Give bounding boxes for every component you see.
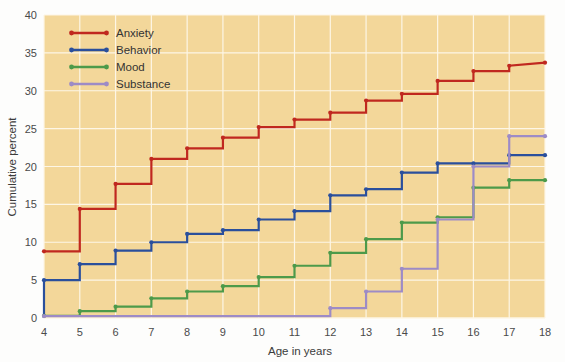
x-tick-label: 8	[184, 326, 190, 338]
legend-marker-start	[69, 31, 74, 36]
series-point	[507, 64, 511, 68]
x-tick-label: 6	[113, 326, 119, 338]
legend-label: Substance	[116, 78, 170, 90]
y-tick-label: 5	[31, 274, 37, 286]
x-tick-label: 5	[77, 326, 83, 338]
y-axis-title: Cumulative percent	[6, 117, 18, 217]
series-point	[507, 134, 511, 138]
series-point	[185, 146, 189, 150]
series-point	[149, 157, 153, 161]
series-point	[543, 153, 547, 157]
y-tick-label: 40	[25, 9, 37, 21]
y-tick-label: 25	[25, 123, 37, 135]
x-tick-label: 4	[41, 326, 47, 338]
series-point	[328, 111, 332, 115]
y-tick-label: 10	[25, 236, 37, 248]
y-tick-label: 20	[25, 161, 37, 173]
x-axis-title: Age in years	[268, 345, 332, 357]
legend-marker-start	[69, 65, 74, 70]
series-point	[78, 207, 82, 211]
y-tick-label: 30	[25, 85, 37, 97]
series-point	[471, 164, 475, 168]
series-point	[185, 232, 189, 236]
series-point	[78, 309, 82, 313]
series-point	[257, 217, 261, 221]
series-point	[328, 306, 332, 310]
series-point	[42, 314, 46, 318]
series-point	[400, 170, 404, 174]
series-point	[400, 267, 404, 271]
x-tick-label: 11	[289, 326, 300, 338]
series-point	[257, 125, 261, 129]
x-tick-label: 15	[432, 326, 444, 338]
series-point	[471, 69, 475, 73]
series-point	[149, 240, 153, 244]
legend-marker-end	[104, 65, 109, 70]
series-point	[364, 289, 368, 293]
series-point	[221, 284, 225, 288]
series-point	[113, 248, 117, 252]
series-point	[149, 296, 153, 300]
series-point	[113, 182, 117, 186]
legend-label: Behavior	[116, 44, 162, 56]
series-point	[292, 209, 296, 213]
chart-canvas: 0510152025303540 45678910111213141516171…	[0, 0, 565, 362]
series-point	[436, 161, 440, 165]
series-point	[436, 217, 440, 221]
x-tick-label: 13	[360, 326, 372, 338]
series-point	[364, 237, 368, 241]
legend-marker-end	[104, 48, 109, 53]
series-point	[292, 264, 296, 268]
series-point	[400, 220, 404, 224]
y-tick-label: 35	[25, 47, 37, 59]
x-tick-label: 10	[253, 326, 265, 338]
legend-label: Anxiety	[116, 27, 154, 39]
series-point	[78, 262, 82, 266]
series-point	[221, 228, 225, 232]
series-point	[328, 193, 332, 197]
legend-marker-start	[69, 48, 74, 53]
x-tick-label: 16	[467, 326, 479, 338]
y-axis-tick-labels: 0510152025303540	[25, 9, 37, 324]
x-tick-label: 9	[220, 326, 226, 338]
series-point	[543, 134, 547, 138]
series-point	[364, 98, 368, 102]
legend-label: Mood	[116, 61, 145, 73]
x-axis-tick-labels: 456789101112131415161718	[41, 326, 551, 338]
x-tick-label: 14	[396, 326, 408, 338]
series-point	[436, 79, 440, 83]
x-tick-label: 17	[503, 326, 515, 338]
y-tick-label: 0	[31, 312, 37, 324]
series-point	[42, 249, 46, 253]
series-point	[42, 278, 46, 282]
series-point	[364, 187, 368, 191]
series-point	[400, 92, 404, 96]
y-tick-label: 15	[25, 198, 37, 210]
series-point	[543, 178, 547, 182]
series-point	[507, 178, 511, 182]
legend-marker-end	[104, 31, 109, 36]
series-point	[543, 61, 547, 65]
series-point	[292, 117, 296, 121]
series-point	[113, 305, 117, 309]
series-point	[221, 136, 225, 140]
legend-marker-end	[104, 82, 109, 87]
x-tick-label: 7	[148, 326, 154, 338]
series-point	[257, 275, 261, 279]
x-tick-label: 12	[324, 326, 336, 338]
series-point	[185, 289, 189, 293]
cumulative-percent-chart: 0510152025303540 45678910111213141516171…	[0, 0, 565, 362]
series-point	[328, 251, 332, 255]
x-tick-label: 18	[539, 326, 551, 338]
legend-marker-start	[69, 82, 74, 87]
